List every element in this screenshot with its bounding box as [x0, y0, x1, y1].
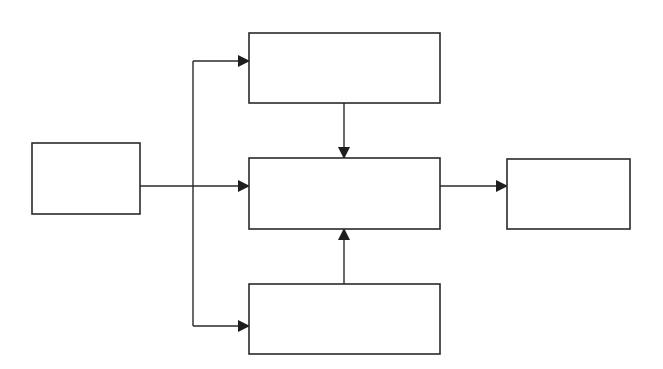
- center-box: [249, 158, 440, 229]
- bottom-box: [249, 284, 440, 354]
- input-box: [32, 143, 140, 214]
- boxes: [32, 33, 630, 354]
- output-box: [507, 159, 630, 229]
- block-diagram: [0, 0, 663, 369]
- top-box: [249, 33, 440, 103]
